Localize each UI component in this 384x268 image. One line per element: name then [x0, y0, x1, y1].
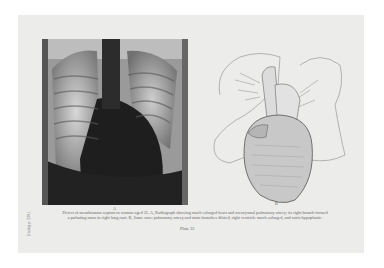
heart-drawing	[200, 45, 350, 205]
side-page-note: [facing p. 229]	[26, 212, 31, 236]
plate-label: Plate 32	[180, 226, 195, 231]
panel-b-label: B	[275, 201, 278, 206]
caption-line-2: a pulsating mass in right lung root. B, …	[40, 215, 350, 220]
figure-caption: Defect of membranous septum in woman age…	[40, 210, 350, 220]
chest-xray-image	[42, 39, 188, 205]
